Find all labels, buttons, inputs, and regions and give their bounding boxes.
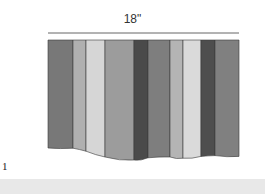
stripe-5	[134, 40, 148, 160]
stripe-9	[201, 40, 215, 156]
stripe-8	[183, 40, 201, 158]
stripe-7	[170, 40, 183, 159]
stripe-group	[48, 40, 239, 160]
bottom-bar	[0, 179, 265, 194]
stripe-2	[73, 40, 86, 151]
stripe-4	[105, 40, 134, 160]
striped-panel-diagram	[0, 0, 265, 194]
figure-number: 1	[2, 160, 8, 172]
stripe-10	[215, 40, 239, 157]
stripe-1	[48, 40, 73, 149]
stripe-6	[148, 40, 170, 158]
stripe-3	[86, 40, 105, 157]
